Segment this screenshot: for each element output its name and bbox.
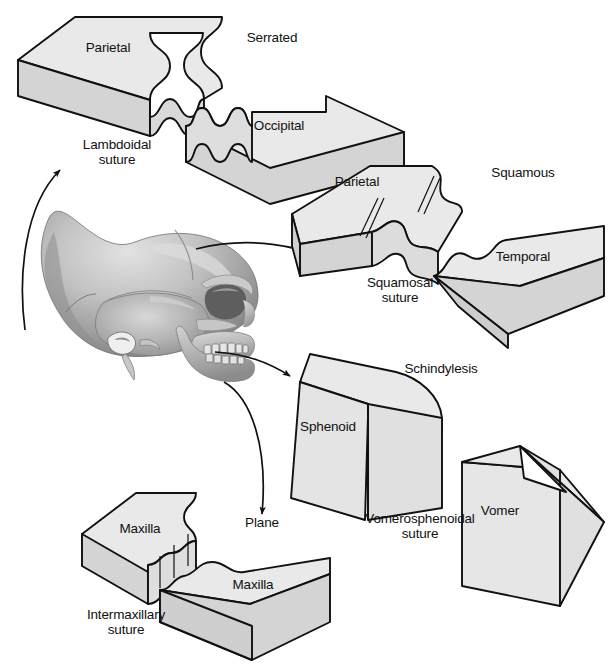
label-maxilla-lower: Maxilla: [233, 578, 274, 593]
label-vomer: Vomer: [481, 504, 519, 519]
panel-schindylesis: [291, 354, 604, 606]
suture-types-figure: Serrated Parietal Occipital Lambdoidal s…: [0, 0, 609, 671]
label-lambdoidal-suture: Lambdoidal suture: [83, 138, 151, 167]
label-plane: Plane: [245, 516, 279, 531]
panel-squamous: [292, 166, 604, 348]
skull-illustration: [41, 211, 258, 381]
label-vomerosphenoidal-suture: Vomerosphenoidal suture: [365, 512, 474, 541]
label-intermaxillary-suture: Intermaxillary suture: [87, 608, 165, 637]
arrow-to-plane: [224, 382, 263, 514]
label-maxilla-upper: Maxilla: [120, 522, 161, 537]
label-squamosal-suture: Squamosal suture: [367, 276, 433, 305]
label-schindylesis: Schindylesis: [404, 362, 477, 377]
label-parietal-squamous: Parietal: [335, 175, 380, 190]
figure-artwork: [0, 0, 609, 671]
label-parietal-serrated: Parietal: [86, 41, 131, 56]
label-temporal: Temporal: [496, 250, 550, 265]
label-squamous: Squamous: [491, 166, 554, 181]
label-occipital: Occipital: [254, 119, 304, 134]
label-serrated: Serrated: [247, 31, 298, 46]
label-sphenoid: Sphenoid: [300, 420, 356, 435]
